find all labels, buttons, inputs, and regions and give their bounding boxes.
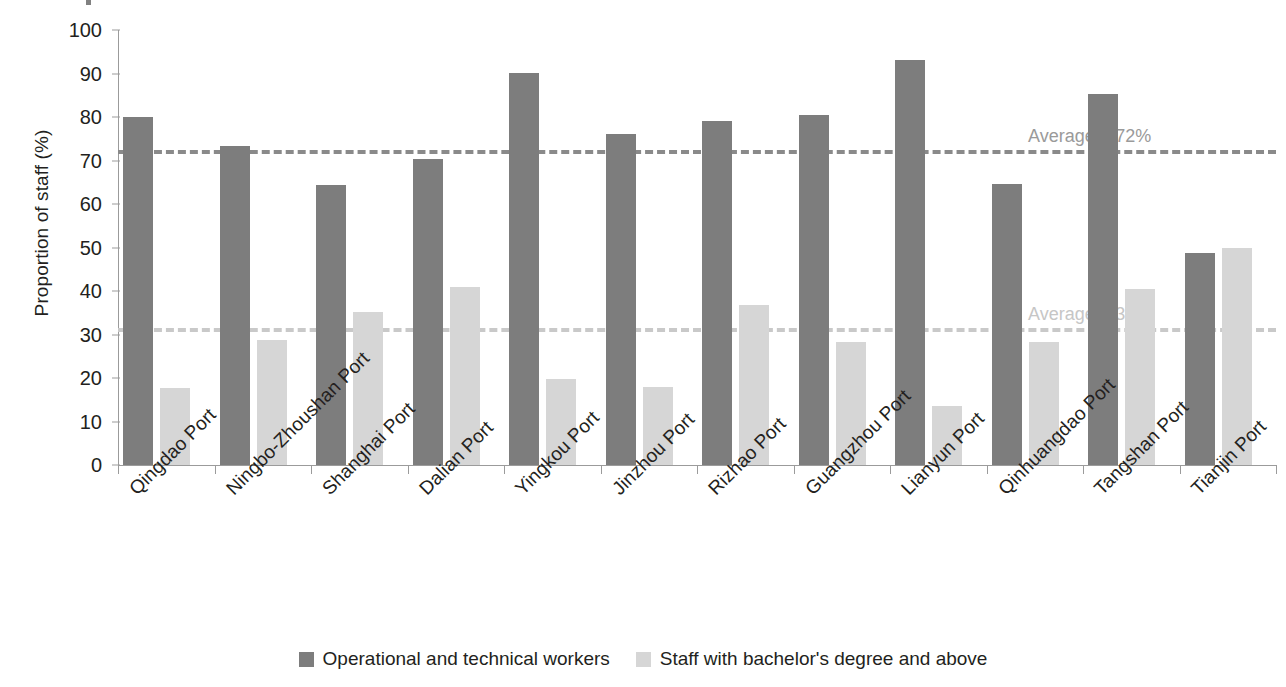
legend-item[interactable]: Staff with bachelor's degree and above [636, 648, 988, 670]
legend-swatch-icon [636, 652, 651, 667]
x-tick-mark [311, 465, 312, 474]
bar-group [601, 30, 698, 465]
bar-operational-technical[interactable] [702, 121, 732, 465]
chart-legend: Operational and technical workersStaff w… [0, 648, 1286, 670]
y-tick-label: 60 [80, 193, 102, 216]
y-tick-label: 10 [80, 410, 102, 433]
x-tick-mark [697, 465, 698, 474]
bar-operational-technical[interactable] [992, 184, 1022, 465]
bar-operational-technical[interactable] [316, 185, 346, 465]
y-tick-label: 100 [69, 19, 102, 42]
legend-label: Staff with bachelor's degree and above [660, 648, 988, 670]
y-tick-label: 70 [80, 149, 102, 172]
x-tick-mark [1276, 465, 1277, 474]
bar-group [504, 30, 601, 465]
x-tick-mark [215, 465, 216, 474]
x-tick-mark [987, 465, 988, 474]
bar-operational-technical[interactable] [606, 134, 636, 465]
legend-swatch-icon [299, 652, 314, 667]
bar-operational-technical[interactable] [1185, 253, 1215, 465]
bar-operational-technical[interactable] [220, 146, 250, 465]
y-tick-label: 90 [80, 62, 102, 85]
x-tick-mark [1083, 465, 1084, 474]
x-tick-mark [118, 465, 119, 474]
legend-label: Operational and technical workers [323, 648, 610, 670]
y-tick-label: 0 [91, 454, 102, 477]
x-tick-mark [408, 465, 409, 474]
y-axis-ticks: 0102030405060708090100 [0, 0, 118, 687]
y-tick-label: 50 [80, 236, 102, 259]
bar-operational-technical[interactable] [413, 159, 443, 465]
bar-operational-technical[interactable] [799, 115, 829, 465]
bar-group [987, 30, 1084, 465]
bar-group [794, 30, 891, 465]
bar-group [697, 30, 794, 465]
bar-group [408, 30, 505, 465]
x-tick-mark [890, 465, 891, 474]
x-tick-mark [1180, 465, 1181, 474]
bar-group [1180, 30, 1277, 465]
bar-group [215, 30, 312, 465]
bar-operational-technical[interactable] [123, 117, 153, 465]
x-tick-mark [794, 465, 795, 474]
legend-item[interactable]: Operational and technical workers [299, 648, 610, 670]
y-tick-label: 80 [80, 106, 102, 129]
chart-page: Proportion of staff (%) 0102030405060708… [0, 0, 1286, 687]
y-tick-label: 20 [80, 367, 102, 390]
bar-operational-technical[interactable] [509, 73, 539, 465]
x-tick-mark [504, 465, 505, 474]
bar-group [118, 30, 215, 465]
x-tick-mark [601, 465, 602, 474]
y-tick-label: 30 [80, 323, 102, 346]
y-tick-label: 40 [80, 280, 102, 303]
